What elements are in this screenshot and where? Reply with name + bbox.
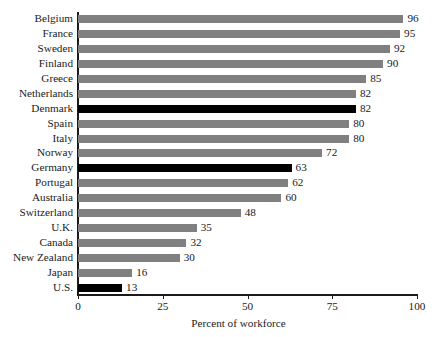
bar-category-label: Australia: [32, 193, 73, 204]
bar-value-label: 80: [353, 133, 364, 144]
x-axis-tick-label: 75: [327, 301, 338, 312]
bar: [78, 45, 390, 53]
bar-category-label: Finland: [39, 59, 73, 70]
bar-value-label: 62: [292, 178, 303, 189]
bar-category-label: Italy: [52, 133, 73, 144]
bar-value-label: 96: [407, 14, 418, 25]
x-axis-tick-label: 50: [242, 301, 253, 312]
x-axis-tick: [417, 294, 418, 299]
x-axis-tick: [78, 294, 79, 299]
bar-value-label: 85: [370, 73, 381, 84]
bar-value-label: 63: [296, 163, 307, 174]
bar: [78, 164, 292, 172]
bar-category-label: U.S.: [53, 282, 73, 293]
bar-value-label: 92: [394, 44, 405, 55]
bar-row: Norway72: [78, 146, 417, 161]
x-axis-title-label: Percent of workforce: [191, 318, 285, 329]
bar-category-label: Japan: [48, 267, 73, 278]
bar-value-label: 72: [326, 148, 337, 159]
bar-category-label: Switzerland: [20, 207, 73, 218]
bar: [78, 224, 197, 232]
bar-row: U.K.35: [78, 221, 417, 236]
bar-value-label: 32: [190, 237, 201, 248]
x-axis-tick: [248, 294, 249, 299]
bar-row: Portugal62: [78, 176, 417, 191]
bar-value-label: 16: [136, 267, 147, 278]
bar-row: U.S.13: [78, 280, 417, 295]
bar-row: Denmark82: [78, 101, 417, 116]
bar-value-label: 95: [404, 29, 415, 40]
bar: [78, 149, 322, 157]
bar-row: New Zealand30: [78, 250, 417, 265]
bar-category-label: Germany: [31, 163, 73, 174]
x-axis-title: Percent of workforce: [0, 318, 439, 329]
bar-row: Sweden92: [78, 42, 417, 57]
x-axis-tick-label: 25: [157, 301, 168, 312]
bar-category-label: Spain: [48, 118, 73, 129]
bar-category-label: New Zealand: [13, 252, 73, 263]
bar-row: Italy80: [78, 131, 417, 146]
x-axis-tick-label: 0: [75, 301, 81, 312]
bar-category-label: Canada: [39, 237, 73, 248]
x-axis-tick: [163, 294, 164, 299]
bar: [78, 179, 288, 187]
bar: [78, 254, 180, 262]
bar: [78, 194, 281, 202]
bar-row: Japan16: [78, 265, 417, 280]
bar-value-label: 13: [126, 282, 137, 293]
bar: [78, 75, 366, 83]
bar-category-label: Denmark: [31, 103, 73, 114]
bar-row: Australia60: [78, 191, 417, 206]
bar-category-label: Norway: [37, 148, 73, 159]
bar: [78, 284, 122, 292]
bar: [78, 269, 132, 277]
bar: [78, 60, 383, 68]
bar-value-label: 90: [387, 59, 398, 70]
bar: [78, 209, 241, 217]
bar-value-label: 80: [353, 118, 364, 129]
bar-value-label: 82: [360, 88, 371, 99]
bar-category-label: Portugal: [35, 178, 73, 189]
bar-value-label: 82: [360, 103, 371, 114]
x-axis-tick: [332, 294, 333, 299]
bar: [78, 105, 356, 113]
x-axis-tick-label: 100: [409, 301, 426, 312]
plot-area: Belgium96France95Sweden92Finland90Greece…: [78, 12, 417, 295]
bar-category-label: Netherlands: [19, 88, 73, 99]
bar: [78, 15, 403, 23]
bar: [78, 135, 349, 143]
bar-row: Netherlands82: [78, 86, 417, 101]
bar-category-label: Belgium: [34, 14, 73, 25]
bar: [78, 90, 356, 98]
bar-row: Finland90: [78, 57, 417, 72]
bar-category-label: Sweden: [38, 44, 73, 55]
bar-row: Switzerland48: [78, 206, 417, 221]
bar-row: Canada32: [78, 235, 417, 250]
bar-value-label: 35: [201, 222, 212, 233]
bar-category-label: Greece: [41, 73, 73, 84]
bar-row: Greece85: [78, 72, 417, 87]
bar-chart: Belgium96France95Sweden92Finland90Greece…: [0, 0, 439, 337]
bar-row: Belgium96: [78, 12, 417, 27]
bar-category-label: France: [43, 29, 73, 40]
bar-value-label: 48: [245, 207, 256, 218]
bar-value-label: 60: [285, 193, 296, 204]
bar-row: Germany63: [78, 161, 417, 176]
bar: [78, 30, 400, 38]
bar-row: Spain80: [78, 116, 417, 131]
bar: [78, 239, 186, 247]
bar-category-label: U.K.: [51, 222, 73, 233]
bar-row: France95: [78, 27, 417, 42]
bar-value-label: 30: [184, 252, 195, 263]
bar: [78, 120, 349, 128]
